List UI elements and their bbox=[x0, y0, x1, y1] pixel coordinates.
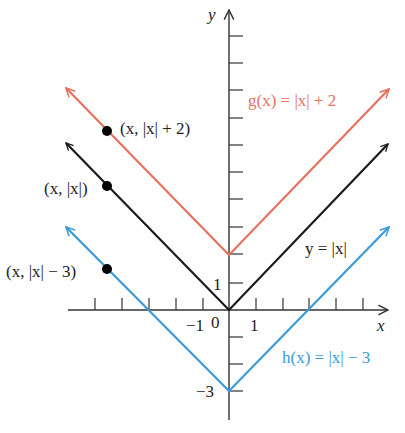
x-axis-label: x bbox=[376, 316, 385, 335]
tick-label-neg1: −1 bbox=[186, 316, 204, 335]
point-label-f: (x, |x|) bbox=[44, 179, 88, 198]
y-ticks bbox=[229, 36, 243, 391]
curve-f bbox=[66, 143, 388, 310]
point-label-h: (x, |x| − 3) bbox=[6, 262, 76, 281]
y-axis-label: y bbox=[206, 5, 216, 24]
point-label-g: (x, |x| + 2) bbox=[120, 119, 190, 138]
label-h: h(x) = |x| − 3 bbox=[282, 348, 370, 367]
point-g bbox=[102, 126, 112, 136]
abs-value-graph: y x −1 0 1 1 −3 g(x) = |x| + 2 y = |x| h… bbox=[0, 0, 405, 433]
curve-g bbox=[66, 88, 389, 255]
tick-label-y1: 1 bbox=[213, 275, 222, 294]
tick-label-0: 0 bbox=[211, 313, 220, 332]
point-h bbox=[102, 264, 112, 274]
tick-label-yneg3: −3 bbox=[196, 382, 214, 401]
label-g: g(x) = |x| + 2 bbox=[248, 91, 336, 110]
label-f: y = |x| bbox=[305, 239, 347, 258]
tick-label-1: 1 bbox=[250, 316, 259, 335]
point-f bbox=[102, 181, 112, 191]
